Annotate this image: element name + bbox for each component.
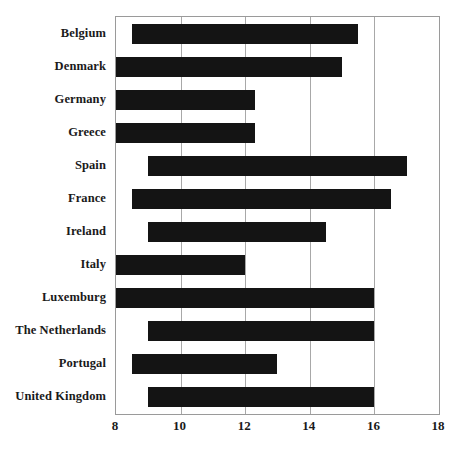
bar: [116, 288, 374, 308]
bar: [116, 57, 342, 77]
category-label: Germany: [55, 93, 106, 106]
bar: [148, 321, 374, 341]
category-label: United Kingdom: [15, 390, 106, 403]
category-label: France: [68, 192, 106, 205]
category-label: Ireland: [66, 225, 106, 238]
plot-area: [115, 16, 440, 415]
x-tick-label: 10: [173, 419, 186, 432]
bar: [148, 222, 326, 242]
bar: [132, 189, 390, 209]
x-tick-label: 8: [112, 419, 119, 432]
bar: [116, 255, 245, 275]
bar: [116, 123, 255, 143]
bar: [132, 354, 277, 374]
category-axis: BelgiumDenmarkGermanyGreeceSpainFranceIr…: [0, 16, 110, 413]
x-tick-label: 16: [367, 419, 380, 432]
x-tick-label: 14: [302, 419, 315, 432]
bars-layer: [116, 17, 439, 414]
category-label: Portugal: [59, 357, 106, 370]
x-tick-label: 12: [238, 419, 251, 432]
category-label: The Netherlands: [15, 324, 106, 337]
x-tick-label: 18: [432, 419, 445, 432]
value-axis: 81012141618: [115, 415, 438, 443]
bar: [132, 24, 358, 44]
bar: [116, 90, 255, 110]
category-label: Luxemburg: [42, 291, 106, 304]
category-label: Italy: [81, 258, 107, 271]
category-label: Greece: [68, 126, 106, 139]
bar: [148, 156, 406, 176]
category-label: Denmark: [55, 60, 106, 73]
horizontal-range-bar-chart: BelgiumDenmarkGermanyGreeceSpainFranceIr…: [0, 0, 455, 458]
bar: [148, 387, 374, 407]
category-label: Spain: [75, 159, 106, 172]
category-label: Belgium: [61, 27, 106, 40]
